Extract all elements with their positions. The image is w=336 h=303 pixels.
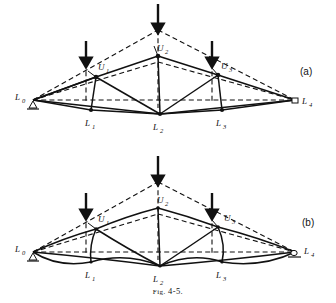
member-U1-L2-diagonal	[96, 229, 160, 266]
label-U2: U	[157, 195, 164, 205]
panel-b-undeformed-outline	[33, 182, 295, 260]
panel-a: L 0 L 1 L 2 L 3 L 4 U 1 U 2 U 3 (a)	[14, 4, 313, 134]
figure-caption: Fig. 4-5.	[0, 286, 336, 296]
pointer-u1-tick	[88, 71, 96, 77]
panel-b-members	[33, 208, 295, 266]
joint-L2	[158, 264, 161, 267]
joint-L1	[89, 108, 93, 112]
figure-caption-number: 4-5.	[168, 286, 183, 296]
figure-page: L 0 L 1 L 2 L 3 L 4 U 1 U 2 U 3 (a)	[0, 0, 336, 303]
label-U2-sub: 2	[165, 48, 169, 55]
panel-label-b: (b)	[302, 217, 314, 228]
label-L0-sub: 0	[22, 97, 26, 104]
member-L0-U1	[33, 229, 96, 252]
joint-U2	[156, 206, 160, 210]
label-L2-sub: 2	[160, 127, 164, 134]
member-L2-U3-diagonal	[160, 227, 218, 266]
label-L0-sub: 0	[22, 249, 26, 256]
panel-b: L 0 L 1 L 2 L 3 L 4 U 1 U 2 U 3 (b)	[14, 156, 315, 286]
dashed-left-top-chord	[33, 30, 158, 100]
member-L2-L4-chordline	[160, 100, 295, 114]
label-U1: U	[98, 214, 105, 224]
label-L3: L	[215, 118, 221, 128]
label-L1: L	[84, 270, 90, 280]
member-U3-L4	[218, 75, 295, 100]
member-U3-L3	[218, 75, 222, 110]
label-L2: L	[152, 274, 158, 284]
member-L0-L2-chordline	[33, 252, 160, 266]
joint-L3	[220, 108, 224, 112]
label-U2-sub: 2	[165, 200, 169, 207]
dashed-left-top-chord	[33, 182, 158, 252]
label-U3: U	[224, 213, 231, 223]
label-L4: L	[301, 96, 307, 106]
dashed-diagonal-left-lower	[33, 214, 158, 252]
label-L1-sub: 1	[92, 123, 95, 130]
panel-a-undeformed-outline	[33, 30, 295, 108]
joint-L1	[89, 260, 92, 263]
label-L3-sub: 3	[222, 275, 227, 282]
joint-L3	[220, 260, 223, 263]
truss-figure: L 0 L 1 L 2 L 3 L 4 U 1 U 2 U 3 (a)	[0, 0, 336, 303]
member-U2-U3	[158, 208, 218, 227]
joint-L2	[158, 112, 162, 116]
label-L1-sub: 1	[92, 275, 95, 282]
member-U2-U3	[158, 56, 218, 75]
label-L3: L	[215, 270, 221, 280]
label-U3-sub: 3	[228, 66, 233, 73]
member-U3-L4	[218, 227, 295, 252]
label-L1: L	[84, 118, 90, 128]
label-U1-sub: 1	[106, 219, 109, 226]
panel-b-loads	[86, 156, 212, 212]
label-L2-sub: 2	[160, 279, 164, 286]
label-U1: U	[98, 62, 105, 72]
panel-a-members	[33, 56, 295, 114]
label-L3-sub: 3	[222, 123, 227, 130]
label-U2: U	[157, 43, 164, 53]
panel-a-loads	[86, 4, 212, 60]
label-U3: U	[221, 61, 228, 71]
panel-a-support-pin	[27, 101, 39, 109]
member-L0-L2-chordline	[33, 100, 160, 114]
label-U1-sub: 1	[106, 67, 109, 74]
label-L2: L	[152, 122, 158, 132]
label-L4-sub: 4	[309, 101, 313, 108]
member-L0-L1	[33, 252, 91, 264]
pointer-u1-tick	[88, 223, 96, 229]
panel-a-labels: L 0 L 1 L 2 L 3 L 4 U 1 U 2 U 3 (a)	[14, 43, 313, 134]
label-L0: L	[14, 244, 20, 254]
label-L4-sub: 4	[311, 251, 315, 258]
panel-label-a: (a)	[300, 66, 312, 77]
panel-a-support-roller	[292, 98, 298, 103]
label-L4: L	[303, 246, 309, 256]
figure-caption-prefix: Fig.	[153, 288, 166, 296]
label-L0: L	[14, 92, 20, 102]
roller-circle	[291, 250, 297, 255]
member-L0-U1-diagonal	[33, 77, 96, 100]
